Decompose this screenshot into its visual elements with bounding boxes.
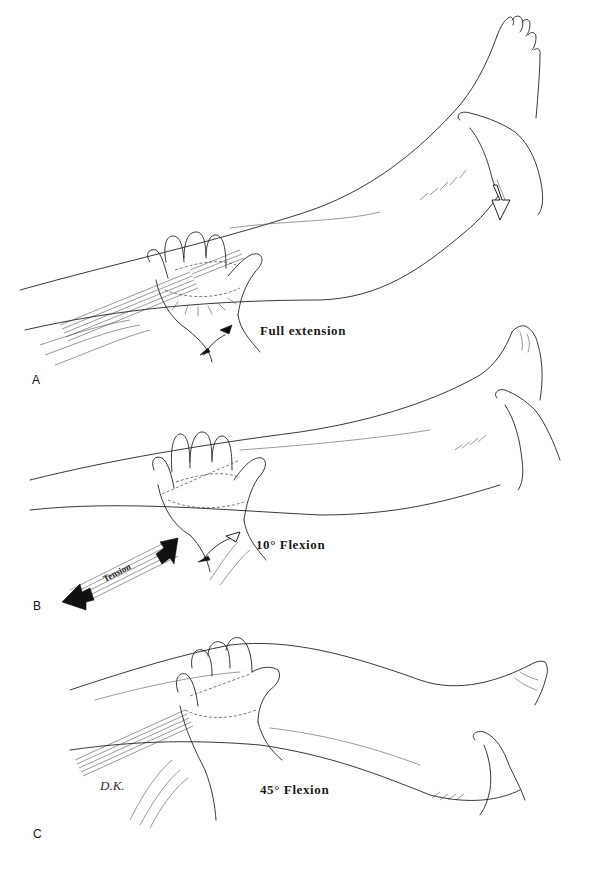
panel-c: 45° Flexion D.K. C <box>0 610 611 873</box>
caption-45-flexion: 45° Flexion <box>260 783 329 796</box>
up-arrow-icon <box>198 556 210 562</box>
caption-10-flexion: 10° Flexion <box>256 538 325 551</box>
artist-signature: D.K. <box>100 778 125 794</box>
panel-b: Tension 10° Flexion B <box>0 310 611 620</box>
panel-letter-c: C <box>33 828 42 840</box>
tension-label: Tension <box>101 561 132 583</box>
leg-10-flexion-illustration: Tension <box>0 310 611 620</box>
left-arrowhead-icon <box>62 584 94 610</box>
leg-45-flexion-illustration <box>0 610 611 873</box>
tension-arrow: Tension <box>62 538 178 610</box>
